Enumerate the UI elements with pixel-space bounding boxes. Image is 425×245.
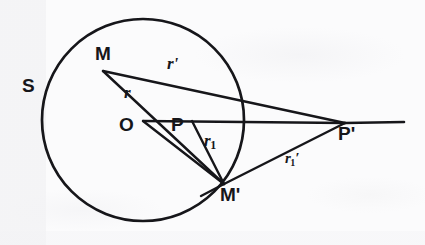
label-r-one: r1 — [204, 132, 216, 151]
label-point-p-prime: P' — [338, 124, 355, 143]
label-sphere-s: S — [22, 76, 35, 95]
geometry-drawing — [0, 0, 425, 245]
label-r-prime-text: r' — [167, 54, 178, 73]
label-r-prime: r' — [167, 55, 178, 72]
label-r-one-prime-mark: ′ — [295, 150, 299, 166]
label-r: r — [124, 84, 131, 101]
label-r-text: r — [124, 83, 131, 102]
label-point-o: O — [119, 115, 134, 134]
segment-m-pprime — [103, 71, 345, 123]
label-point-m: M — [95, 44, 111, 63]
label-r-one-prime: r1′ — [285, 151, 300, 168]
geometry-figure: S M r' r O P r1 M' r1′ P' — [0, 0, 425, 245]
label-point-m-prime: M' — [220, 185, 240, 204]
label-r-one-subscript: 1 — [210, 138, 216, 152]
label-point-p: P — [171, 115, 184, 134]
